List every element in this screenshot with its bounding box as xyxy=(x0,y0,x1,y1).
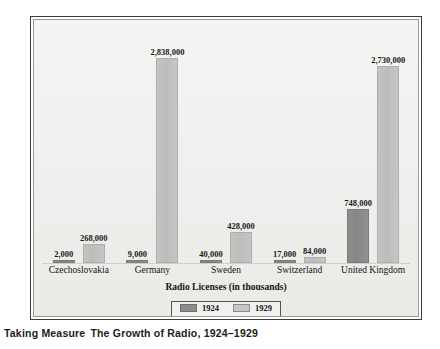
bar-group: 40,000428,000 xyxy=(189,20,263,263)
category-label: Germany xyxy=(116,265,190,275)
chart-legend: 19241929 xyxy=(171,301,281,317)
figure-frame: 2,000268,0009,0002,838,00040,000428,0001… xyxy=(30,16,422,320)
category-label: Sweden xyxy=(189,265,263,275)
axis-title: Radio Licenses (in thousands) xyxy=(34,282,418,292)
bar-slot: 268,000 xyxy=(83,20,105,263)
bar-value-label: 2,000 xyxy=(54,250,73,259)
bar-1929-czechoslovakia[interactable] xyxy=(83,244,105,263)
bar-slot: 2,730,000 xyxy=(377,20,399,263)
plot-area: 2,000268,0009,0002,838,00040,000428,0001… xyxy=(34,20,418,263)
bar-group: 2,000268,000 xyxy=(42,20,116,263)
bar-groups: 2,000268,0009,0002,838,00040,000428,0001… xyxy=(42,20,410,263)
bar-value-label: 17,000 xyxy=(273,250,296,259)
bar-value-label: 428,000 xyxy=(227,222,255,231)
bar-slot: 40,000 xyxy=(200,20,222,263)
bar-group: 9,0002,838,000 xyxy=(116,20,190,263)
bar-value-label: 2,838,000 xyxy=(150,48,184,57)
legend-label: 1924 xyxy=(202,304,219,313)
category-label: Switzerland xyxy=(263,265,337,275)
legend-label: 1929 xyxy=(255,304,272,313)
bar-value-label: 748,000 xyxy=(344,199,372,208)
bar-1929-germany[interactable] xyxy=(156,58,178,263)
axis-baseline xyxy=(42,263,410,264)
bar-1924-united-kingdom[interactable] xyxy=(347,209,369,263)
bar-value-label: 84,000 xyxy=(303,247,326,256)
bar-value-label: 2,730,000 xyxy=(371,56,405,65)
figure-caption: Taking MeasureThe Growth of Radio, 1924–… xyxy=(4,327,258,339)
bar-1929-united-kingdom[interactable] xyxy=(377,66,399,263)
bar-slot: 84,000 xyxy=(304,20,326,263)
category-label: Czechoslovakia xyxy=(42,265,116,275)
bar-group: 17,00084,000 xyxy=(263,20,337,263)
legend-item-1924[interactable]: 1924 xyxy=(180,304,219,313)
bar-slot: 2,000 xyxy=(53,20,75,263)
bar-group: 748,0002,730,000 xyxy=(336,20,410,263)
bar-slot: 428,000 xyxy=(230,20,252,263)
chart-panel: 2,000268,0009,0002,838,00040,000428,0001… xyxy=(33,19,419,317)
legend-item-1929[interactable]: 1929 xyxy=(233,304,272,313)
bar-slot: 2,838,000 xyxy=(156,20,178,263)
legend-swatch-icon xyxy=(180,304,197,312)
bar-slot: 9,000 xyxy=(126,20,148,263)
bar-slot: 748,000 xyxy=(347,20,369,263)
caption-title: The Growth of Radio, 1924–1929 xyxy=(90,327,258,339)
bar-value-label: 268,000 xyxy=(80,234,108,243)
bar-value-label: 9,000 xyxy=(128,250,147,259)
legend-swatch-icon xyxy=(233,304,250,312)
category-label: United Kingdom xyxy=(336,265,410,275)
bar-slot: 17,000 xyxy=(274,20,296,263)
bar-1929-sweden[interactable] xyxy=(230,232,252,263)
caption-lead: Taking Measure xyxy=(4,327,85,339)
category-axis-labels: CzechoslovakiaGermanySwedenSwitzerlandUn… xyxy=(42,265,410,275)
bar-value-label: 40,000 xyxy=(199,250,222,259)
